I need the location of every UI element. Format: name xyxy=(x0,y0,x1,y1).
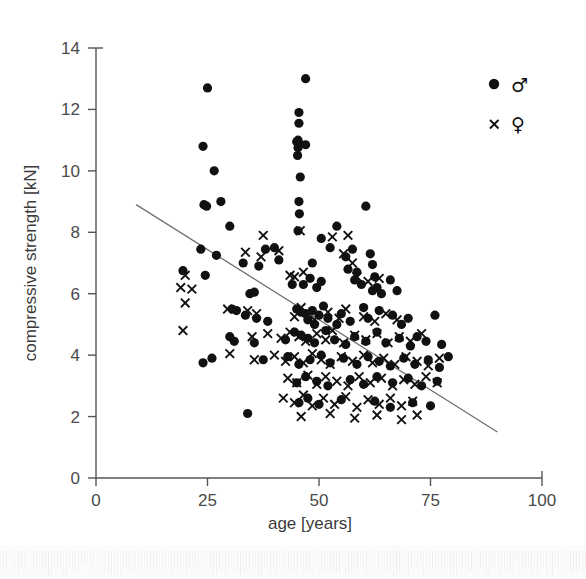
scan-artifact-bar xyxy=(111,551,112,575)
scan-artifact-bar xyxy=(387,551,388,572)
scan-artifact-bar xyxy=(552,551,553,575)
data-point-male xyxy=(437,340,446,349)
scan-artifact-bar xyxy=(159,551,160,576)
scan-artifact-bar xyxy=(48,551,49,576)
data-point-male xyxy=(319,301,328,310)
scan-artifact-bar xyxy=(279,551,280,570)
scan-artifact-bar xyxy=(435,551,436,570)
scan-artifact-bar xyxy=(528,551,529,567)
data-point-male xyxy=(310,320,319,329)
scan-artifact-bar xyxy=(60,551,61,569)
data-point-male xyxy=(232,306,241,315)
scan-artifact-bar xyxy=(306,551,307,570)
scan-artifact-bar xyxy=(63,551,64,575)
data-point-male xyxy=(433,377,442,386)
scan-artifact-bar xyxy=(261,551,262,575)
scan-artifact-bar xyxy=(42,551,43,571)
scan-artifact-bar xyxy=(480,551,481,568)
scan-artifact-bar xyxy=(282,551,283,570)
scan-artifact-bar xyxy=(477,551,478,567)
data-point-male xyxy=(301,74,310,83)
scan-artifact-bar xyxy=(246,551,247,570)
scan-artifact-bar xyxy=(153,551,154,570)
data-point-male xyxy=(408,398,417,407)
scan-artifact-bar xyxy=(576,551,577,573)
data-point-male xyxy=(230,337,239,346)
data-point-male xyxy=(346,317,355,326)
data-point-male xyxy=(202,202,211,211)
scan-artifact-bar xyxy=(405,551,406,574)
scan-artifact-bar xyxy=(456,551,457,577)
scan-artifact-bar xyxy=(408,551,409,577)
data-point-male xyxy=(207,354,216,363)
scan-artifact-bar xyxy=(390,551,391,572)
scan-artifact-bar xyxy=(72,551,73,571)
scan-artifact-bar xyxy=(468,551,469,571)
scan-artifact-bar xyxy=(162,551,163,567)
scan-artifact-bar xyxy=(195,551,196,571)
scan-artifact-bar xyxy=(432,551,433,569)
scan-artifact-bar xyxy=(285,551,286,567)
data-point-female xyxy=(348,259,357,268)
scan-artifact-bar xyxy=(336,551,337,574)
scan-artifact-bar xyxy=(168,551,169,572)
scan-artifact-bar xyxy=(87,551,88,565)
scatter-plot-svg: 02468101214 0255075100 compressive stren… xyxy=(0,0,586,545)
scan-artifact-bar xyxy=(300,551,301,575)
data-point-female xyxy=(241,248,250,257)
data-point-female xyxy=(393,316,402,325)
scan-artifact-bar xyxy=(201,551,202,565)
scan-artifact-bar xyxy=(54,551,55,566)
scan-artifact-bar xyxy=(441,551,442,570)
data-point-male xyxy=(216,197,225,206)
scan-artifact-bar xyxy=(363,551,364,570)
scan-artifact-bar xyxy=(567,551,568,569)
data-point-female xyxy=(250,355,259,364)
scan-artifact-bar xyxy=(429,551,430,567)
scan-artifact-bar xyxy=(414,551,415,571)
scan-artifact-bar xyxy=(546,551,547,574)
data-point-female xyxy=(283,374,292,383)
data-point-male xyxy=(444,352,453,361)
data-point-male xyxy=(326,243,335,252)
scan-artifact-bar xyxy=(33,551,34,569)
data-point-female xyxy=(270,351,279,360)
y-tick-label: 10 xyxy=(61,162,80,181)
scan-artifact-bar xyxy=(531,551,532,574)
scan-artifact-bar xyxy=(504,551,505,572)
scan-artifact-bar xyxy=(51,551,52,576)
data-point-male xyxy=(239,258,248,267)
scan-artifact-bar xyxy=(288,551,289,571)
scan-artifact-bar xyxy=(213,551,214,574)
data-point-male xyxy=(332,222,341,231)
data-point-male xyxy=(326,358,335,367)
data-point-female xyxy=(344,231,353,240)
scan-artifact-bar xyxy=(513,551,514,575)
scan-artifact-bar xyxy=(453,551,454,577)
scan-artifact-bar xyxy=(381,551,382,570)
scan-artifact-bar xyxy=(81,551,82,565)
scan-artifact-bar xyxy=(393,551,394,577)
scan-artifact-bar xyxy=(75,551,76,571)
scan-artifact-bar xyxy=(99,551,100,567)
data-point-male xyxy=(254,261,263,270)
data-point-female xyxy=(350,414,359,423)
scan-artifact-bar xyxy=(27,551,28,575)
y-tick-label: 4 xyxy=(71,346,80,365)
scan-artifact-bar xyxy=(189,551,190,567)
data-point-male xyxy=(295,209,304,218)
data-point-female xyxy=(290,312,299,321)
scan-artifact-strip xyxy=(0,545,586,579)
scan-artifact-bar xyxy=(327,551,328,569)
data-point-female xyxy=(299,268,308,277)
x-tick-label: 0 xyxy=(91,491,100,510)
scan-artifact-bar xyxy=(516,551,517,566)
scan-artifact-bar xyxy=(15,551,16,570)
scan-artifact-bar xyxy=(345,551,346,576)
x-tick-label: 50 xyxy=(310,491,329,510)
scan-artifact-bar xyxy=(558,551,559,572)
scan-artifact-bar xyxy=(12,551,13,569)
y-axis-label: compressive strength [kN] xyxy=(21,165,40,362)
scan-artifact-bar xyxy=(411,551,412,568)
scan-artifact-bar xyxy=(447,551,448,566)
